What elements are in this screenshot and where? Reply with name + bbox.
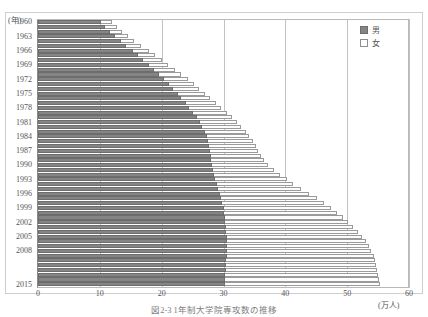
- bar-segment-male: [38, 115, 197, 119]
- bar-row: [38, 258, 375, 262]
- bar-segment-female: [101, 20, 112, 24]
- bar-segment-male: [38, 144, 209, 148]
- x-tick-label-20: 20: [147, 290, 177, 298]
- bar-segment-male: [38, 25, 105, 29]
- bar-segment-female: [221, 196, 317, 200]
- bar-segment-female: [202, 125, 241, 129]
- bar-segment-male: [38, 177, 215, 181]
- bar-row: [38, 263, 376, 267]
- bar-segment-female: [225, 220, 348, 224]
- bar-segment-male: [38, 173, 214, 177]
- bar-segment-male: [38, 273, 225, 277]
- bar-row: [38, 230, 358, 234]
- bar-segment-male: [38, 220, 225, 224]
- bar-row: [38, 235, 362, 239]
- y-tick-label-1984: 1984: [2, 133, 32, 141]
- bar-segment-female: [159, 72, 181, 76]
- bar-row: [38, 77, 188, 81]
- gridline-60: [409, 19, 410, 288]
- x-tick-label-0: 0: [23, 290, 53, 298]
- bar-segment-male: [38, 96, 181, 100]
- bar-segment-female: [126, 44, 141, 48]
- bar-row: [38, 273, 378, 277]
- bar-segment-female: [227, 244, 369, 248]
- legend-swatch-female-icon: [360, 39, 368, 47]
- bar-row: [38, 130, 246, 134]
- bar-row: [38, 96, 210, 100]
- bar-segment-male: [38, 254, 227, 258]
- bar-row: [38, 239, 366, 243]
- y-tick-label-1999: 1999: [2, 204, 32, 212]
- bar-row: [38, 101, 216, 105]
- bar-segment-male: [38, 63, 149, 67]
- bar-row: [38, 206, 331, 210]
- y-tick-label-1990: 1990: [2, 161, 32, 169]
- y-tick-label-2002: 2002: [2, 219, 32, 227]
- y-tick-label-1966: 1966: [2, 47, 32, 55]
- bar-segment-female: [217, 182, 294, 186]
- bar-row: [38, 244, 369, 248]
- bar-segment-male: [38, 44, 126, 48]
- bar-segment-male: [38, 282, 225, 286]
- bar-segment-female: [181, 96, 209, 100]
- bar-row: [38, 177, 287, 181]
- bar-segment-female: [197, 115, 232, 119]
- legend-swatch-male-icon: [360, 26, 368, 34]
- bar-segment-male: [38, 263, 226, 267]
- bar-segment-female: [138, 53, 155, 57]
- bar-segment-female: [186, 101, 216, 105]
- x-tick-label-40: 40: [270, 290, 300, 298]
- bar-segment-female: [173, 87, 199, 91]
- bar-segment-male: [38, 92, 178, 96]
- bar-segment-female: [226, 258, 375, 262]
- bar-segment-male: [38, 72, 159, 76]
- bar-row: [38, 34, 128, 38]
- bar-row: [38, 196, 317, 200]
- bar-row: [38, 173, 280, 177]
- bar-segment-female: [222, 201, 324, 205]
- bar-row: [38, 139, 253, 143]
- bar-row: [38, 39, 134, 43]
- bar-segment-female: [215, 177, 286, 181]
- bar-segment-female: [207, 134, 250, 138]
- bar-segment-female: [169, 82, 194, 86]
- bar-segment-female: [225, 215, 343, 219]
- y-tick-label-1993: 1993: [2, 176, 32, 184]
- bar-segment-male: [38, 53, 138, 57]
- bar-segment-male: [38, 235, 227, 239]
- bar-segment-female: [224, 211, 337, 215]
- legend-item-female: 女: [360, 37, 380, 48]
- bar-segment-male: [38, 101, 186, 105]
- bar-row: [38, 115, 232, 119]
- bar-segment-male: [38, 244, 227, 248]
- bar-segment-female: [154, 68, 175, 72]
- bar-segment-female: [227, 235, 362, 239]
- bar-segment-female: [227, 239, 366, 243]
- y-tick-label-1987: 1987: [2, 147, 32, 155]
- bar-row: [38, 63, 168, 67]
- y-tick-label-2008: 2008: [2, 247, 32, 255]
- bar-row: [38, 82, 194, 86]
- bar-segment-male: [38, 268, 226, 272]
- y-tick-label-1960: 1960: [2, 18, 32, 26]
- bar-row: [38, 92, 205, 96]
- bar-segment-female: [115, 34, 128, 38]
- bar-segment-female: [213, 168, 274, 172]
- bar-segment-male: [38, 30, 110, 34]
- bar-row: [38, 72, 181, 76]
- bar-segment-male: [38, 187, 218, 191]
- bar-segment-female: [200, 120, 237, 124]
- bar-segment-female: [164, 77, 187, 81]
- y-tick-label-1969: 1969: [2, 61, 32, 69]
- bar-segment-female: [211, 154, 262, 158]
- bar-row: [38, 192, 309, 196]
- bar-segment-female: [218, 187, 301, 191]
- bar-row: [38, 134, 249, 138]
- bar-row: [38, 106, 221, 110]
- bar-segment-male: [38, 130, 205, 134]
- bar-segment-female: [227, 249, 372, 253]
- bar-segment-male: [38, 182, 217, 186]
- bar-row: [38, 249, 371, 253]
- bar-row: [38, 201, 324, 205]
- bar-row: [38, 215, 343, 219]
